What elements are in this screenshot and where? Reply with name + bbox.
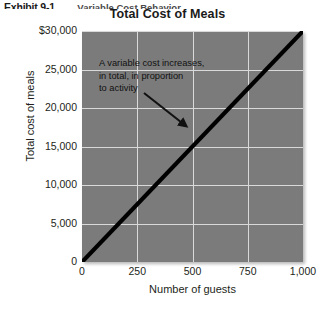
chart-title: Total Cost of Meals <box>0 7 335 21</box>
y-axis-tick-label: 25,000 <box>7 63 77 75</box>
annotation-line: A variable cost increases, <box>99 57 204 70</box>
x-axis-tick-label: 0 <box>57 265 107 277</box>
y-axis-title: Total cost of meals <box>24 36 36 196</box>
x-axis-title: Number of guests <box>82 283 303 295</box>
annotation-arrow-icon <box>142 91 202 141</box>
y-axis-tick-label: 5,000 <box>7 217 77 229</box>
y-axis-tick-label: 10,000 <box>7 178 77 190</box>
x-axis-tick-label: 750 <box>223 265 273 277</box>
x-axis-tick-label: 250 <box>112 265 162 277</box>
annotation-variable-cost-note: A variable cost increases,in total, in p… <box>99 57 204 95</box>
x-axis-tick-label: 500 <box>168 265 218 277</box>
y-axis-tick-label: $30,000 <box>7 24 77 36</box>
y-axis-tick-label: 20,000 <box>7 101 77 113</box>
x-axis-tick-label: 1,000 <box>278 265 328 277</box>
annotation-line: in total, in proportion <box>99 70 204 83</box>
y-axis-tick-label: 15,000 <box>7 140 77 152</box>
plot-area: A variable cost increases,in total, in p… <box>82 31 303 262</box>
